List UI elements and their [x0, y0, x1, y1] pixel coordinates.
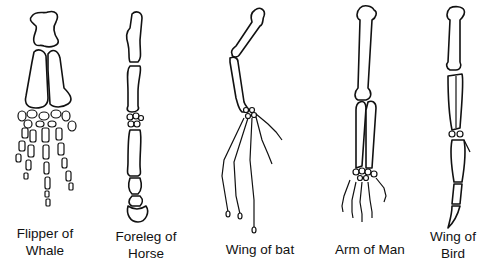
- horse-cannon-bone: [128, 130, 141, 176]
- label-bird-line1: Wing of: [418, 228, 480, 245]
- bird-wing-skeleton: [447, 7, 470, 228]
- whale-flipper-skeleton: [16, 11, 76, 206]
- whale-ulna: [48, 51, 71, 107]
- label-horse: Foreleg of Horse: [106, 228, 186, 262]
- bat-digits: [222, 114, 282, 233]
- label-man: Arm of Man: [320, 241, 420, 258]
- bat-carpals: [244, 108, 257, 119]
- human-ulna: [366, 101, 376, 168]
- label-whale-line1: Flipper of: [5, 225, 85, 242]
- horse-pastern: [129, 178, 142, 194]
- human-humerus: [355, 6, 376, 100]
- label-bird: Wing of Bird: [418, 228, 480, 262]
- label-bat-line1: Wing of bat: [210, 241, 310, 258]
- label-whale-line2: Whale: [5, 242, 85, 259]
- whale-humerus: [30, 11, 58, 46]
- human-radius: [356, 101, 366, 168]
- label-horse-line1: Foreleg of: [106, 228, 186, 245]
- label-man-line1: Arm of Man: [320, 241, 420, 258]
- human-digits: [342, 178, 386, 222]
- label-bat: Wing of bat: [210, 241, 310, 258]
- bird-metacarpal: [451, 140, 465, 182]
- bat-humerus: [231, 8, 264, 57]
- whale-digits: [16, 128, 73, 206]
- horse-carpals: [127, 113, 144, 127]
- bat-wing-skeleton: [222, 8, 282, 233]
- label-horse-line2: Horse: [106, 245, 186, 262]
- bird-digit: [452, 184, 462, 204]
- human-carpals: [353, 168, 377, 181]
- bird-claw: [448, 206, 460, 228]
- bird-humerus: [447, 7, 465, 70]
- horse-hoof: [127, 206, 147, 222]
- horse-radius: [127, 66, 140, 112]
- human-arm-skeleton: [342, 6, 386, 222]
- label-whale: Flipper of Whale: [5, 225, 85, 259]
- horse-coffin-bone: [129, 196, 142, 206]
- horse-foreleg-skeleton: [127, 12, 148, 222]
- label-bird-line2: Bird: [418, 245, 480, 262]
- whale-radius: [25, 50, 48, 108]
- horse-humerus: [127, 12, 142, 62]
- bat-radius: [230, 57, 249, 112]
